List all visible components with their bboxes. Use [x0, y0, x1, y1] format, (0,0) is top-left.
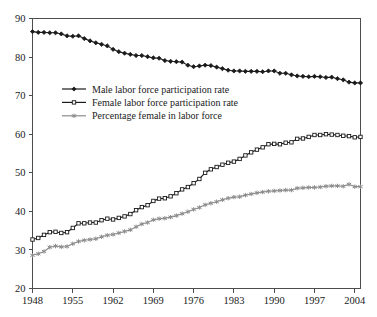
y-tick-label: 80: [15, 52, 26, 63]
marker-filled-diamond: [88, 39, 92, 43]
x-tick-label: 1990: [264, 295, 285, 306]
marker-filled-diamond: [307, 75, 311, 79]
marker-open-square: [72, 101, 75, 104]
marker-filled-diamond: [122, 51, 126, 55]
chart-series-3: [30, 182, 362, 257]
y-tick-label: 20: [15, 283, 26, 294]
x-axis-tick-labels: 194819551962196919761983199019972004: [22, 289, 366, 307]
chart-series-1: [30, 30, 362, 85]
marker-filled-diamond: [272, 69, 276, 73]
marker-filled-diamond: [312, 74, 316, 78]
marker-open-square: [267, 143, 270, 146]
marker-filled-diamond: [59, 32, 63, 36]
y-tick-label: 50: [15, 167, 26, 178]
marker-filled-diamond: [295, 74, 299, 78]
marker-filled-diamond: [157, 56, 161, 60]
marker-open-square: [296, 137, 299, 140]
marker-open-square: [198, 177, 201, 180]
marker-open-square: [175, 192, 178, 195]
marker-filled-diamond: [243, 69, 247, 73]
x-tick-label: 1983: [223, 295, 244, 306]
marker-open-square: [244, 154, 247, 157]
marker-open-square: [123, 215, 126, 218]
marker-filled-diamond: [71, 34, 75, 38]
marker-filled-diamond: [232, 69, 236, 73]
marker-open-square: [226, 161, 229, 164]
x-tick-label: 1955: [62, 295, 83, 306]
marker-open-square: [238, 157, 241, 160]
series-markers: [30, 182, 362, 257]
marker-open-square: [134, 209, 137, 212]
marker-filled-diamond: [151, 56, 155, 60]
marker-filled-diamond: [186, 63, 190, 67]
marker-filled-diamond: [174, 60, 178, 64]
line-chart: 2030405060708090 19481955196219691976198…: [0, 0, 377, 317]
marker-open-square: [48, 230, 51, 233]
marker-star: [71, 242, 75, 246]
series-line: [33, 32, 361, 83]
marker-filled-diamond: [82, 36, 86, 40]
marker-filled-diamond: [324, 75, 328, 79]
marker-open-square: [359, 135, 362, 138]
chart-series-group: [30, 30, 362, 258]
marker-filled-diamond: [301, 74, 305, 78]
marker-filled-diamond: [30, 30, 34, 34]
marker-open-square: [77, 222, 80, 225]
marker-filled-diamond: [255, 69, 259, 73]
marker-open-square: [347, 134, 350, 137]
series-line: [33, 184, 361, 255]
marker-filled-diamond: [65, 34, 69, 38]
marker-filled-diamond: [278, 71, 282, 75]
marker-open-square: [215, 165, 218, 168]
marker-filled-diamond: [140, 53, 144, 57]
marker-open-square: [88, 221, 91, 224]
marker-filled-diamond: [226, 68, 230, 72]
marker-open-square: [324, 133, 327, 136]
y-tick-label: 70: [15, 90, 26, 101]
series-markers: [30, 30, 362, 85]
marker-open-square: [261, 146, 264, 149]
marker-open-square: [157, 197, 160, 200]
marker-open-square: [42, 233, 45, 236]
marker-filled-diamond: [134, 53, 138, 57]
marker-open-square: [186, 185, 189, 188]
x-tick-label: 1997: [304, 295, 325, 306]
marker-open-square: [307, 135, 310, 138]
legend-label: Female labor force participation rate: [92, 97, 239, 108]
marker-filled-diamond: [341, 78, 345, 82]
marker-filled-diamond: [238, 69, 242, 73]
y-tick-label: 60: [15, 129, 26, 140]
legend-item-3: Percentage female in labor force: [62, 110, 222, 121]
x-tick-label: 1969: [143, 295, 164, 306]
series-markers: [31, 133, 362, 242]
legend-label: Percentage female in labor force: [92, 110, 222, 121]
marker-filled-diamond: [215, 65, 219, 69]
y-tick-label: 30: [15, 245, 26, 256]
marker-filled-diamond: [220, 67, 224, 71]
marker-filled-diamond: [99, 42, 103, 46]
marker-open-square: [203, 171, 206, 174]
marker-filled-diamond: [48, 31, 52, 35]
x-tick-label: 2004: [344, 295, 366, 306]
marker-filled-diamond: [353, 81, 357, 85]
legend-item-2: Female labor force participation rate: [62, 97, 239, 108]
marker-open-square: [272, 142, 275, 145]
marker-open-square: [117, 216, 120, 219]
marker-filled-diamond: [53, 31, 57, 35]
marker-filled-diamond: [261, 70, 265, 74]
marker-filled-diamond: [72, 87, 76, 91]
marker-open-square: [54, 230, 57, 233]
marker-open-square: [342, 134, 345, 137]
marker-open-square: [249, 151, 252, 154]
marker-filled-diamond: [180, 60, 184, 64]
marker-open-square: [330, 133, 333, 136]
y-axis-tick-labels: 2030405060708090: [15, 13, 33, 294]
marker-open-square: [192, 182, 195, 185]
marker-filled-diamond: [163, 58, 167, 62]
marker-open-square: [111, 218, 114, 221]
marker-filled-diamond: [76, 34, 80, 38]
marker-filled-diamond: [330, 75, 334, 79]
marker-open-square: [180, 188, 183, 191]
marker-open-square: [313, 133, 316, 136]
marker-filled-diamond: [192, 65, 196, 69]
